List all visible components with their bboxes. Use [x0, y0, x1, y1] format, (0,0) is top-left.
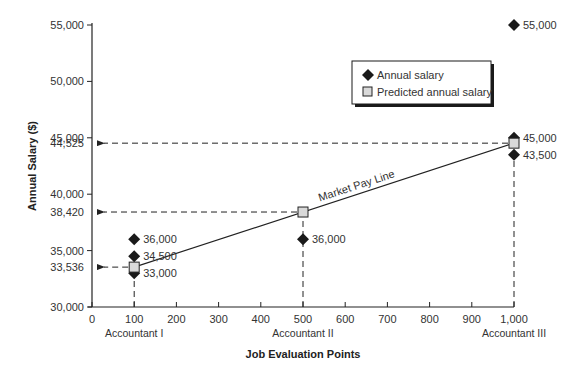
salary-chart: 30,00035,00040,00045,00050,00055,00033,5…	[0, 0, 582, 374]
x-tick-label: 100	[125, 313, 143, 325]
x-tick-label: 900	[463, 313, 481, 325]
x-tick-label: 200	[167, 313, 185, 325]
y-tick-label: 55,000	[50, 19, 84, 31]
x-tick-label: 300	[209, 313, 227, 325]
data-points: 36,00034,50033,00036,00055,00045,00043,5…	[128, 19, 556, 279]
square-icon	[363, 87, 372, 96]
predicted-salary-point	[298, 207, 308, 217]
y-tick-label: 40,000	[50, 188, 84, 200]
y-tick-label: 50,000	[50, 75, 84, 87]
y-tick-label: 30,000	[50, 301, 84, 313]
y-predicted-label: 44,525	[50, 137, 84, 149]
predicted-salary-point	[509, 138, 519, 148]
annual-salary-point	[508, 19, 520, 31]
x-tick-label: 700	[378, 313, 396, 325]
x-tick-label: 0	[89, 313, 95, 325]
annual-salary-point	[128, 250, 140, 262]
chart-canvas: 30,00035,00040,00045,00050,00055,00033,5…	[0, 0, 582, 374]
x-tick-label: 600	[336, 313, 354, 325]
x-axis-title: Job Evaluation Points	[246, 348, 361, 360]
annual-salary-value: 45,000	[523, 132, 557, 144]
x-tick-label: 800	[420, 313, 438, 325]
annual-salary-value: 34,500	[143, 250, 177, 262]
annual-salary-value: 33,000	[143, 267, 177, 279]
y-tick-label: 35,000	[50, 245, 84, 257]
market-pay-line: Market Pay Line	[134, 143, 514, 267]
y-predicted-label: 33,536	[50, 261, 84, 273]
annual-salary-value: 55,000	[523, 19, 557, 31]
annual-salary-point	[128, 233, 140, 245]
x-tick-label: 400	[252, 313, 270, 325]
annual-salary-value: 36,000	[143, 233, 177, 245]
x-tick-label: 1,000	[500, 313, 528, 325]
dashed-guides	[104, 143, 514, 307]
legend: Annual salaryPredicted annual salary	[352, 61, 494, 107]
annual-salary-value: 36,000	[312, 233, 346, 245]
job-category-label: Accountant II	[272, 327, 333, 339]
legend-label-predicted: Predicted annual salary	[377, 86, 492, 98]
annual-salary-point	[508, 149, 520, 161]
job-category-label: Accountant III	[482, 327, 546, 339]
y-axis-title: Annual Salary ($)	[26, 121, 38, 211]
x-tick-label: 500	[294, 313, 312, 325]
annual-salary-value: 43,500	[523, 149, 557, 161]
annual-salary-point	[297, 233, 309, 245]
legend-label-annual: Annual salary	[377, 69, 444, 81]
predicted-salary-point	[129, 262, 139, 272]
y-predicted-label: 38,420	[50, 206, 84, 218]
job-category-label: Accountant I	[105, 327, 163, 339]
